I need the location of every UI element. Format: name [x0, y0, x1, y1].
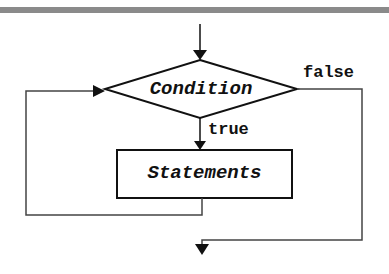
flowchart-canvas: Condition Statements true false	[0, 0, 389, 274]
flowchart-lines	[0, 0, 389, 274]
statements-label: Statements	[117, 162, 292, 184]
condition-label: Condition	[105, 78, 297, 100]
entry-arrow	[193, 24, 207, 60]
true-arrow	[194, 118, 206, 150]
false-label: false	[303, 63, 354, 82]
true-label: true	[208, 120, 249, 139]
